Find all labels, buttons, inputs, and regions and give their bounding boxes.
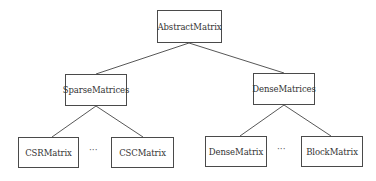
edge-sparse-csc [96,106,143,137]
node-sparse-matrices: SparseMatrices [65,74,127,106]
node-label: AbstractMatrix [157,22,221,32]
node-csr-matrix: CSRMatrix [18,137,79,168]
edge-abstract-sparse [96,43,189,74]
node-label: DenseMatrices [252,84,316,94]
node-label: CSCMatrix [119,148,166,158]
node-label: BlockMatrix [306,147,358,157]
node-label: CSRMatrix [25,148,72,158]
ellipsis-sparse-children: ··· [89,145,98,155]
edge-sparse-csr [52,106,96,137]
node-abstract-matrix: AbstractMatrix [157,10,222,43]
node-csc-matrix: CSCMatrix [111,137,174,168]
ellipsis-dense-children: ··· [277,144,286,154]
edge-abstract-dense [189,43,284,73]
node-dense-matrices: DenseMatrices [253,73,315,105]
node-dense-matrix: DenseMatrix [205,136,267,167]
node-label: SparseMatrices [63,85,130,95]
node-label: DenseMatrix [209,147,263,157]
edge-dense-densematrix [240,105,284,136]
edge-dense-block [284,105,331,136]
node-block-matrix: BlockMatrix [301,136,363,167]
